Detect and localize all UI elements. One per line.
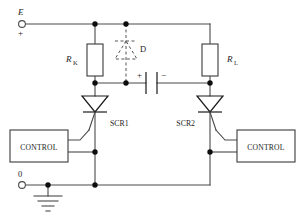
node-bottom-scr1 (92, 182, 97, 187)
resistor-rk-label: R (65, 54, 72, 64)
terminal-ground[interactable]: 0 (18, 169, 25, 188)
junction-nodes (45, 21, 212, 187)
node-mid-rk (92, 80, 97, 85)
scr2-label: SCR2 (176, 119, 195, 128)
diode-branch-dashed (115, 24, 137, 83)
control2-label: CONTROL (247, 143, 284, 152)
resistor-rl-subscript: L (234, 59, 238, 66)
resistor-rl-label: R (226, 54, 233, 64)
terminal-supply[interactable]: E + (17, 7, 25, 38)
terminal-supply-polarity: + (18, 28, 23, 38)
resistor-rk (87, 44, 103, 76)
control-block-left[interactable]: CONTROL (10, 130, 68, 162)
control-block-right[interactable]: CONTROL (237, 130, 295, 162)
diode-label: D (140, 44, 146, 54)
scr1-triangle-icon (82, 96, 108, 112)
node-top-diode (123, 21, 128, 26)
circuit-schematic: CONTROL CONTROL E + 0 R K (0, 0, 303, 224)
scr1-label: SCR1 (110, 119, 129, 128)
scr2-triangle-icon (197, 96, 223, 112)
wire-ctrl2-gate (216, 130, 237, 140)
resistor-rl (202, 44, 218, 76)
control1-label: CONTROL (20, 143, 57, 152)
node-top-rk (92, 21, 97, 26)
resistor-rl-body (202, 44, 218, 76)
capacitor-minus-label: − (161, 70, 166, 80)
terminal-ground-label: 0 (18, 169, 22, 179)
resistor-rk-subscript: K (73, 59, 78, 66)
node-bottom-ground (45, 182, 50, 187)
diode-triangle-icon (115, 41, 137, 59)
node-mid-rl (207, 80, 212, 85)
resistor-rk-body (87, 44, 103, 76)
scr1-gate-lead (89, 112, 95, 130)
terminal-supply-label: E (17, 7, 24, 17)
earth-ground-icon (34, 185, 62, 211)
capacitor-plus-label: + (137, 70, 142, 80)
capacitor-c (146, 72, 157, 94)
circuit-diagram-canvas: CONTROL CONTROL E + 0 R K (0, 0, 303, 224)
scr2-gate-lead (210, 112, 216, 130)
node-scr1-cathode (92, 149, 97, 154)
wire-ctrl1-gate (68, 130, 89, 140)
terminal-supply-node[interactable] (19, 21, 26, 28)
terminal-ground-node[interactable] (19, 182, 26, 189)
node-mid-diode (123, 80, 128, 85)
node-scr2-cathode (207, 149, 212, 154)
